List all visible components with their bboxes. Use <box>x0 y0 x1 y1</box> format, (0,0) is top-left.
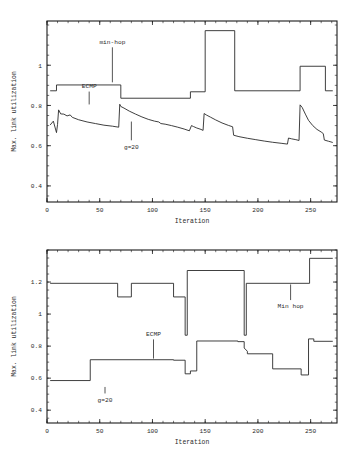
x-tick-label: 200 <box>252 207 263 214</box>
series-line-g-20 <box>50 104 333 144</box>
x-axis-title: Iteration <box>175 218 210 225</box>
chart-top-svg: 0501001502002500.40.60.81IterationMax. l… <box>0 0 354 236</box>
annotation-label-min-hop: min-hop <box>99 39 125 46</box>
x-tick-label: 50 <box>96 428 104 435</box>
x-tick-label: 250 <box>305 207 316 214</box>
y-axis-title: Max. link utilization <box>11 296 18 377</box>
x-tick-label: 0 <box>45 207 49 214</box>
x-tick-label: 250 <box>305 428 316 435</box>
chart-top-panel: 0501001502002500.40.60.81IterationMax. l… <box>0 0 354 236</box>
x-tick-label: 100 <box>147 428 158 435</box>
y-tick-label: 0.4 <box>31 407 42 414</box>
y-tick-label: 0.4 <box>31 183 42 190</box>
annotation-label-ecmp: ECMP <box>146 331 161 338</box>
y-tick-label: 1 <box>38 311 42 318</box>
y-tick-label: 0.6 <box>31 375 42 382</box>
annotation-label-ecmp: ECMP <box>82 83 97 90</box>
chart-bottom-panel: 0501001502002500.40.60.811.2IterationMax… <box>0 235 354 471</box>
x-tick-label: 100 <box>147 207 158 214</box>
plot-frame <box>47 250 337 423</box>
series-line-g-20 <box>50 339 333 381</box>
y-tick-label: 1 <box>38 63 42 70</box>
y-tick-label: 0.8 <box>31 343 42 350</box>
y-tick-label: 0.8 <box>31 103 42 110</box>
x-tick-label: 150 <box>200 428 211 435</box>
x-tick-label: 0 <box>45 428 49 435</box>
chart-bottom-svg: 0501001502002500.40.60.811.2IterationMax… <box>0 235 354 471</box>
y-axis-title: Max. link utilization <box>11 71 18 152</box>
x-tick-label: 50 <box>96 207 104 214</box>
annotation-label-g-20: g=20 <box>98 397 113 404</box>
y-tick-label: 1.2 <box>31 279 42 286</box>
plot-frame <box>47 21 337 202</box>
y-tick-label: 0.6 <box>31 143 42 150</box>
x-tick-label: 200 <box>252 428 263 435</box>
annotation-label-g-20: g=20 <box>124 144 139 151</box>
annotation-label-min-hop: Min hop <box>278 303 304 310</box>
x-axis-title: Iteration <box>175 439 210 446</box>
x-tick-label: 150 <box>200 207 211 214</box>
